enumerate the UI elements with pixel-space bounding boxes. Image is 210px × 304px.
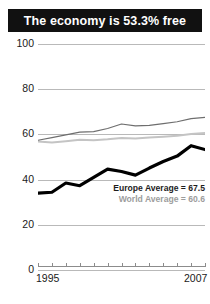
y-tick-label: 100 [4, 38, 34, 49]
series-layer [38, 44, 205, 270]
x-tick [163, 263, 164, 267]
y-tick-label: 60 [4, 128, 34, 139]
x-tick-label: 2007 [184, 272, 207, 284]
x-tick-label: 1995 [36, 272, 59, 284]
page-title: The economy is 53.3% free [24, 14, 186, 28]
x-tick [108, 263, 109, 267]
x-tick [80, 263, 81, 267]
series-line [38, 133, 205, 143]
x-tick [135, 263, 136, 267]
y-tick-label: 40 [4, 174, 34, 185]
y-tick-label: 0 [4, 264, 34, 275]
y-tick-label: 20 [4, 219, 34, 230]
x-tick [66, 263, 67, 267]
legend-item-world: World Average = 60.6 [101, 194, 205, 205]
x-tick [191, 263, 192, 267]
title-banner: The economy is 53.3% free [8, 9, 202, 32]
series-line [38, 117, 205, 140]
y-axis-labels: 020406080100 [0, 44, 34, 270]
legend-item-europe: Europe Average = 67.5 [101, 183, 205, 194]
x-tick [52, 263, 53, 267]
x-tick [94, 263, 95, 267]
gridline [38, 270, 205, 271]
x-tick [122, 263, 123, 267]
x-tick [38, 263, 39, 267]
x-tick [149, 263, 150, 267]
chart-card: The economy is 53.3% free 020406080100 E… [0, 0, 210, 304]
x-tick [177, 263, 178, 267]
legend: Europe Average = 67.5 World Average = 60… [101, 183, 205, 205]
x-tick [205, 263, 206, 267]
y-tick-label: 80 [4, 83, 34, 94]
